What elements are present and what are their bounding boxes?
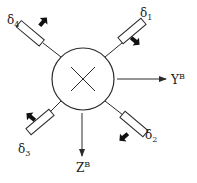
fin-delta3-label: δ3 [18,142,30,158]
fin-delta4-label: δ4 [7,13,19,29]
fin-delta2-label: δ2 [145,128,157,144]
fin-delta1-label: δ1 [140,6,152,22]
y-axis-label: YB [170,72,185,87]
fin-delta4 [16,14,61,57]
z-axis-label: ZB [76,160,90,175]
fin-delta3 [23,101,61,135]
fin-diagram: YB ZB δ4 δ1 δ3 [0,0,197,183]
body-circle [52,48,114,110]
fin-delta4-deflection-arrow-icon [36,14,51,29]
fin-delta1 [105,18,146,57]
fin-delta2-deflection-arrow-icon [116,130,131,145]
fin-delta2 [105,101,148,145]
